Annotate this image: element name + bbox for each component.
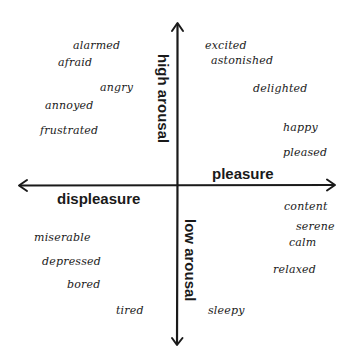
emotion-word-afraid: afraid (58, 57, 92, 68)
emotion-word-happy: happy (283, 122, 318, 133)
emotion-word-miserable: miserable (34, 232, 91, 243)
emotion-word-content: content (284, 201, 328, 212)
emotion-word-pleased: pleased (283, 147, 327, 158)
axes (0, 0, 354, 360)
emotion-word-calm: calm (289, 237, 316, 248)
axis-label-low-arousal: low arousal (183, 219, 198, 302)
emotion-word-relaxed: relaxed (273, 264, 316, 275)
emotion-word-bored: bored (67, 279, 100, 290)
emotion-word-astonished: astonished (211, 55, 273, 66)
emotion-word-depressed: depressed (42, 256, 101, 267)
emotion-word-annoyed: annoyed (45, 100, 94, 111)
emotion-word-angry: angry (100, 82, 133, 93)
axis-label-pleasure: pleasure (212, 166, 274, 181)
circumplex-diagram: high arousal low arousal pleasure disple… (0, 0, 354, 360)
emotion-word-tired: tired (116, 305, 144, 316)
emotion-word-excited: excited (205, 40, 247, 51)
emotion-word-delighted: delighted (253, 83, 308, 94)
emotion-word-frustrated: frustrated (40, 125, 98, 136)
axis-label-displeasure: displeasure (57, 191, 140, 206)
emotion-word-sleepy: sleepy (208, 305, 245, 316)
emotion-word-serene: serene (296, 221, 335, 232)
emotion-word-alarmed: alarmed (73, 40, 120, 51)
axis-label-high-arousal: high arousal (156, 54, 171, 143)
